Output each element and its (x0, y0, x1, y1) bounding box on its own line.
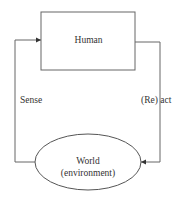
world-node-label: World (environment) (60, 155, 116, 179)
world-label-line1: World (60, 155, 116, 167)
world-label-line2: (environment) (60, 167, 116, 179)
sense-edge-label: Sense (20, 96, 42, 106)
human-node-label: Human (41, 36, 136, 46)
react-edge-label: (Re) act (141, 96, 171, 106)
diagram-canvas: Human World (environment) Sense (Re) act (0, 0, 183, 201)
